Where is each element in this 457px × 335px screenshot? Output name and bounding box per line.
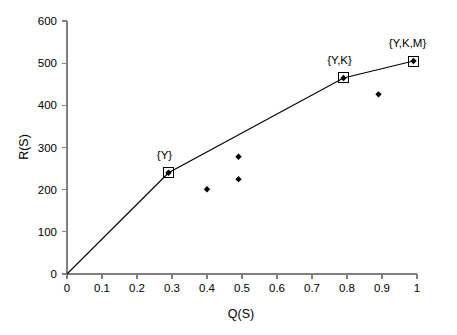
data-point-marker: [235, 154, 241, 160]
frontier-line: [67, 61, 414, 274]
x-tick-label: 0.5: [234, 282, 250, 294]
x-tick-label: 0.1: [94, 282, 110, 294]
x-tick-label: 0.3: [164, 282, 180, 294]
point-annotation-label: {Y}: [157, 149, 173, 161]
chart-container: R(S) Q(S) 0100200300400500600 00.10.20.3…: [0, 0, 457, 335]
y-tick-label: 400: [38, 99, 57, 111]
y-tick-label: 600: [38, 15, 57, 27]
series-group: [67, 56, 419, 274]
annotation-group: {Y}{Y,K}{Y,K,M}: [157, 37, 427, 161]
x-tick-label: 0.7: [304, 282, 320, 294]
y-tick-label: 300: [38, 142, 57, 154]
x-axis-title: Q(S): [228, 307, 254, 321]
point-annotation-label: {Y,K,M}: [389, 37, 427, 49]
data-point-marker: [375, 91, 381, 97]
y-tick-label: 100: [38, 226, 57, 238]
x-tick-label: 0: [64, 282, 70, 294]
point-annotation-label: {Y,K}: [327, 54, 352, 66]
data-point-marker: [340, 75, 346, 81]
data-point-marker: [410, 58, 416, 64]
data-point-marker: [235, 176, 241, 182]
y-axis-title: R(S): [17, 134, 31, 160]
y-tick-label: 0: [51, 268, 57, 280]
y-axis-ticks: 0100200300400500600: [38, 15, 67, 280]
x-tick-label: 1: [414, 282, 420, 294]
x-tick-label: 0.9: [374, 282, 390, 294]
x-tick-label: 0.6: [269, 282, 285, 294]
data-point-marker: [204, 186, 210, 192]
y-tick-label: 500: [38, 57, 57, 69]
x-axis-ticks: 00.10.20.30.40.50.60.70.80.91: [64, 274, 420, 294]
x-tick-label: 0.8: [339, 282, 355, 294]
y-tick-label: 200: [38, 184, 57, 196]
scatter-line-chart: R(S) Q(S) 0100200300400500600 00.10.20.3…: [0, 0, 457, 335]
x-tick-label: 0.4: [199, 282, 216, 294]
x-tick-label: 0.2: [129, 282, 145, 294]
